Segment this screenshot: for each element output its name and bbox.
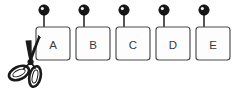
card-b-label: B (89, 39, 97, 51)
card-e-bead-highlight-icon (201, 7, 204, 10)
card-b-bead-highlight-icon (81, 7, 84, 10)
card-a-bead-highlight-icon (41, 7, 44, 10)
card-b[interactable]: B (76, 5, 110, 60)
card-c-bead-icon (119, 5, 129, 15)
card-a-bead-icon (39, 5, 49, 15)
card-e-label: E (209, 39, 217, 51)
card-d-label: D (169, 39, 177, 51)
card-e[interactable]: E (196, 5, 230, 60)
illustration-canvas: A B C (0, 0, 239, 97)
scissors-handle-loop-right-inner (31, 70, 39, 84)
card-a[interactable]: A (36, 5, 70, 60)
card-d-bead-icon (159, 5, 169, 15)
hanging-cards-group: A B C (36, 5, 230, 60)
card-a-label: A (49, 39, 57, 51)
card-d-bead-highlight-icon (161, 7, 164, 10)
card-c[interactable]: C (116, 5, 150, 60)
illustration-svg: A B C (0, 0, 239, 97)
scissors-icon[interactable] (7, 35, 43, 88)
card-e-bead-icon (199, 5, 209, 15)
card-b-bead-icon (79, 5, 89, 15)
card-c-label: C (129, 39, 137, 51)
card-d[interactable]: D (156, 5, 190, 60)
card-c-bead-highlight-icon (121, 7, 124, 10)
